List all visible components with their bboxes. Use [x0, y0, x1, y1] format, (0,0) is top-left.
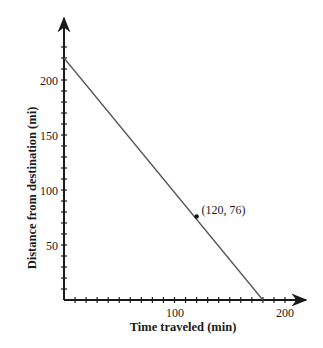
y-tick-label-50: 50 — [46, 239, 58, 253]
x-tick-label-200: 200 — [276, 306, 294, 320]
y-tick-label-100: 100 — [40, 184, 58, 198]
point-label: (120, 76) — [202, 203, 246, 217]
x-tick-label-100: 100 — [166, 306, 184, 320]
distance-line — [64, 58, 263, 300]
line-chart: (120, 76) 200 150 100 50 100 200 Time tr… — [0, 0, 323, 348]
y-tick-label-150: 150 — [40, 129, 58, 143]
y-tick-label-200: 200 — [40, 74, 58, 88]
axis-ticks — [61, 47, 296, 303]
y-axis-title: Distance from destination (mi) — [25, 107, 39, 270]
annotated-point — [194, 214, 198, 218]
x-axis-title: Time traveled (min) — [130, 320, 237, 334]
